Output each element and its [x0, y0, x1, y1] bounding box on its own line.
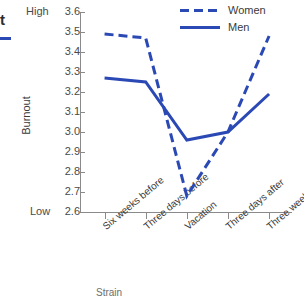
- chart-figure: t High Low Burnout 3.63.53.43.33.23.13.0…: [0, 0, 304, 300]
- y-tick-label: 3.0: [54, 126, 80, 137]
- legend-label: Women: [228, 2, 266, 19]
- y-axis-title: Burnout: [21, 86, 32, 146]
- legend-swatch-women: [180, 9, 220, 12]
- y-axis-low-anchor: Low: [30, 206, 50, 217]
- y-axis-high-anchor: High: [26, 6, 49, 17]
- y-tick-label: 2.6: [54, 206, 80, 217]
- y-tick-label: 2.9: [54, 146, 80, 157]
- title-accent-rule: [0, 37, 11, 40]
- y-tick-label: 3.3: [54, 66, 80, 77]
- series-line-men: [105, 78, 270, 140]
- title-fragment: t: [0, 12, 5, 27]
- y-tick-label: 2.8: [54, 166, 80, 177]
- y-tick-label: 2.7: [54, 186, 80, 197]
- x-axis-title: Strain: [96, 288, 122, 298]
- y-tick-label: 3.1: [54, 106, 80, 117]
- y-axis-ticks: 3.63.53.43.33.23.13.02.92.82.72.6: [52, 0, 80, 300]
- y-tick-label: 3.5: [54, 26, 80, 37]
- y-tick-label: 3.2: [54, 86, 80, 97]
- y-tick-label: 3.4: [54, 46, 80, 57]
- legend-label: Men: [228, 19, 249, 36]
- legend-swatch-men: [180, 26, 220, 29]
- series-lines: [80, 12, 292, 212]
- plot-area: [80, 12, 292, 212]
- y-tick-label: 3.6: [54, 6, 80, 17]
